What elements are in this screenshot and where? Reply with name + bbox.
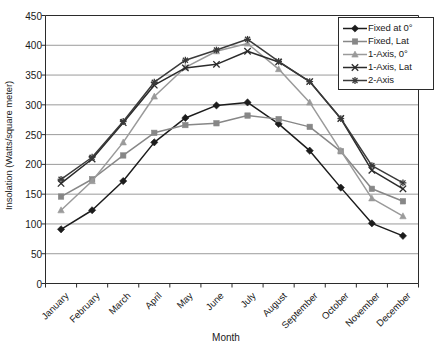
data-point-marker xyxy=(399,232,406,239)
data-point-marker xyxy=(245,113,250,118)
legend-marker-cross-icon xyxy=(342,60,368,73)
legend-item: 1-Axis, Lat xyxy=(342,60,430,73)
data-point-marker xyxy=(151,79,158,86)
legend-label: 2-Axis xyxy=(368,73,394,86)
legend-marker-square-icon xyxy=(342,34,368,47)
insolation-line-chart: Insolation (Watts/square meter) 45040035… xyxy=(0,0,438,352)
data-point-marker xyxy=(307,124,312,129)
data-point-marker xyxy=(352,77,359,84)
series-line xyxy=(61,102,403,235)
data-point-marker xyxy=(351,25,358,32)
data-point-marker xyxy=(400,199,405,204)
data-point-marker xyxy=(89,154,96,161)
data-point-marker xyxy=(400,179,407,186)
data-point-marker xyxy=(120,118,127,125)
data-point-marker xyxy=(368,162,375,169)
series-line xyxy=(61,116,403,202)
legend-marker-triangle-icon xyxy=(342,47,368,60)
data-point-marker xyxy=(183,122,188,127)
data-point-marker xyxy=(58,194,63,199)
legend-item: Fixed, Lat xyxy=(342,34,430,47)
data-point-marker xyxy=(214,121,219,126)
data-point-marker xyxy=(352,39,357,44)
data-point-marker xyxy=(121,153,126,158)
legend-label: Fixed, Lat xyxy=(368,34,409,47)
data-point-marker xyxy=(369,186,374,191)
legend-marker-diamond-icon xyxy=(342,21,368,34)
legend-marker-asterisk-icon xyxy=(342,73,368,86)
data-point-marker xyxy=(400,213,406,219)
data-point-marker xyxy=(57,226,64,233)
data-point-marker xyxy=(276,116,281,121)
data-point-marker xyxy=(275,58,282,65)
legend-item: 1-Axis, 0° xyxy=(342,47,430,60)
legend-item: Fixed at 0° xyxy=(342,21,430,34)
data-point-marker xyxy=(213,47,220,54)
data-point-marker xyxy=(337,115,344,122)
chart-legend: Fixed at 0°Fixed, Lat1-Axis, 0°1-Axis, L… xyxy=(338,17,434,90)
legend-label: 1-Axis, 0° xyxy=(368,47,408,60)
x-axis-title: Month xyxy=(0,332,438,343)
data-point-marker xyxy=(400,186,406,192)
data-point-marker xyxy=(213,102,220,109)
legend-label: Fixed at 0° xyxy=(368,21,412,34)
data-point-marker xyxy=(152,130,157,135)
data-point-marker xyxy=(244,36,251,43)
data-point-marker xyxy=(58,176,65,183)
data-point-marker xyxy=(182,57,189,64)
x-axis-title-text: Month xyxy=(198,332,240,343)
legend-label: 1-Axis, Lat xyxy=(368,60,412,73)
data-point-marker xyxy=(306,78,313,85)
legend-item: 2-Axis xyxy=(342,73,430,86)
